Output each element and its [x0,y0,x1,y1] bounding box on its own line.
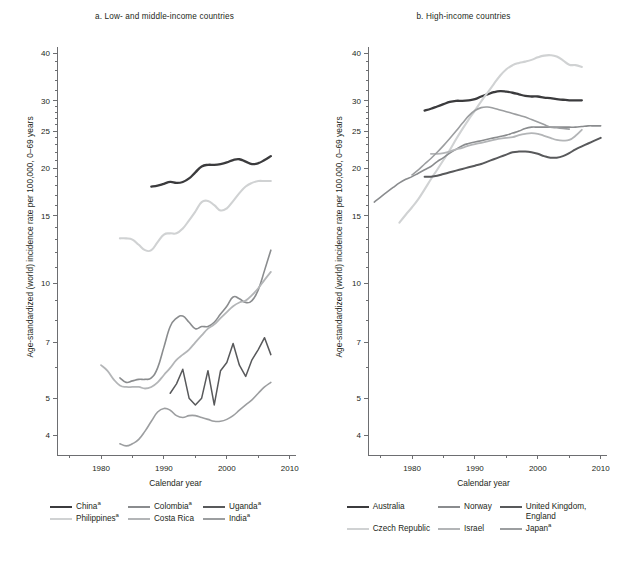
svg-text:5: 5 [46,394,51,403]
legend-item-norway[interactable]: Norway [438,502,492,512]
legend-swatch-icon [50,518,72,520]
legend-item-label: Australia [373,502,405,512]
series-line-colombia [120,250,271,382]
legend-item-label: Philippinesa [76,514,119,524]
panel-b-x-axis-label: Calendar year [311,478,622,488]
legend-item-united-kingdom-england[interactable]: United Kingdom,England [500,502,587,522]
series-line-united-kingdom-england [425,138,601,177]
panel-a-series [101,156,271,446]
svg-text:7: 7 [357,338,362,347]
panel-b-axis: 4571015202530401980199020002010 [352,47,610,473]
svg-text:30: 30 [41,97,50,106]
legend-item-label: Japana [526,524,552,534]
svg-text:30: 30 [352,97,361,106]
series-line-norway [374,126,600,202]
legend-swatch-icon [500,528,522,530]
svg-text:1990: 1990 [466,464,484,473]
series-line-australia [425,91,582,110]
chart-panel-a: a. Low- and middle-income countries 4571… [0,0,311,563]
legend-item-label: Costa Rica [154,514,194,524]
legend-swatch-icon [128,518,150,520]
svg-text:10: 10 [41,279,50,288]
series-line-costa-rica [101,272,271,389]
legend-swatch-icon [347,506,369,508]
panel-a-x-axis-label: Calendar year [0,478,311,488]
figure-container: a. Low- and middle-income countries 4571… [0,0,622,563]
legend-item-label: Chinaa [76,502,101,512]
svg-text:1980: 1980 [403,464,421,473]
svg-text:20: 20 [352,164,361,173]
legend-item-label: Norway [464,502,492,512]
legend-item-costa-rica[interactable]: Costa Rica [128,514,194,524]
legend-item-label: Czech Republic [373,524,430,534]
panel-a-legend-grid: ChinaaColombiaaUgandaaPhilippinesaCosta … [0,502,311,524]
svg-text:25: 25 [352,127,361,136]
panel-b-plot: 4571015202530401980199020002010 [311,0,622,500]
svg-text:10: 10 [352,279,361,288]
svg-text:20: 20 [41,164,50,173]
svg-text:2010: 2010 [592,464,610,473]
svg-text:1980: 1980 [92,464,110,473]
legend-item-label: Colombiaa [154,502,192,512]
svg-text:4: 4 [46,431,51,440]
panel-b-y-axis-label: Age-standardized (world) incidence rate … [334,37,344,437]
legend-item-colombia[interactable]: Colombiaa [128,502,194,512]
svg-text:2000: 2000 [218,464,236,473]
legend-item-czech-republic[interactable]: Czech Republic [347,524,430,534]
legend-item-label: Ugandaa [229,502,261,512]
panel-a-plot: 4571015202530401980199020002010 [0,0,311,500]
panel-a-axis: 4571015202530401980199020002010 [41,47,299,473]
legend-swatch-icon [128,506,150,508]
panel-b-legend-grid: AustraliaNorwayUnited Kingdom,EnglandCze… [311,502,622,534]
legend-swatch-icon [347,528,369,530]
legend-swatch-icon [50,506,72,508]
svg-text:7: 7 [46,338,51,347]
svg-text:15: 15 [352,212,361,221]
svg-text:25: 25 [41,127,50,136]
svg-text:1990: 1990 [155,464,173,473]
legend-swatch-icon [438,528,460,530]
legend-item-philippines[interactable]: Philippinesa [50,514,119,524]
panel-a-y-axis-label: Age-standardized (world) incidence rate … [25,37,35,437]
svg-text:15: 15 [41,212,50,221]
legend-item-label: United Kingdom,England [526,502,587,522]
panel-b-series [374,55,600,223]
legend-item-india[interactable]: Indiaa [203,514,261,524]
series-line-india [120,382,271,446]
legend-swatch-icon [203,506,225,508]
svg-text:40: 40 [41,49,50,58]
svg-text:40: 40 [352,49,361,58]
legend-item-china[interactable]: Chinaa [50,502,119,512]
svg-text:5: 5 [357,394,362,403]
svg-text:2000: 2000 [529,464,547,473]
legend-swatch-icon [500,506,522,508]
svg-text:4: 4 [357,431,362,440]
svg-text:2010: 2010 [281,464,299,473]
legend-item-japan[interactable]: Japana [500,524,587,534]
footnote-strip [8,556,308,563]
legend-swatch-icon [203,518,225,520]
legend-item-uganda[interactable]: Ugandaa [203,502,261,512]
series-line-philippines [120,181,271,251]
legend-swatch-icon [438,506,460,508]
chart-panel-b: b. High-income countries 457101520253040… [311,0,622,563]
panel-b-legend: AustraliaNorwayUnited Kingdom,EnglandCze… [311,502,622,534]
legend-item-label: Israel [464,524,484,534]
legend-item-label: Indiaa [229,514,250,524]
legend-item-australia[interactable]: Australia [347,502,430,512]
legend-item-israel[interactable]: Israel [438,524,492,534]
panel-a-legend: ChinaaColombiaaUgandaaPhilippinesaCosta … [0,502,311,524]
